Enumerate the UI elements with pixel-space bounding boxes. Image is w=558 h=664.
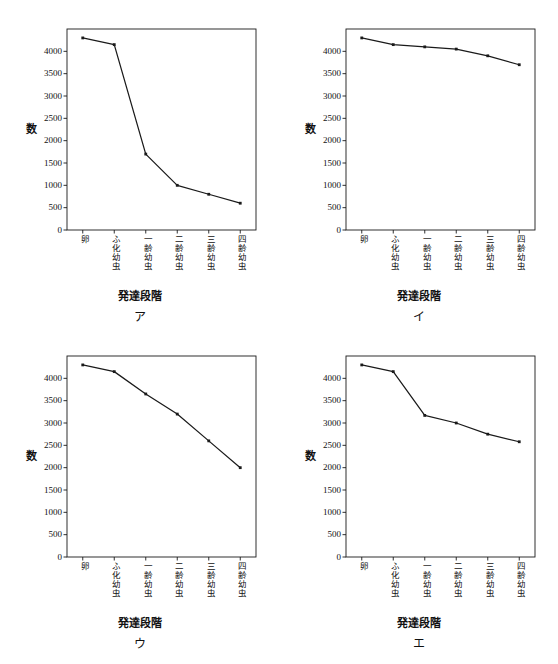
- x-axis-title: 発達段階: [279, 287, 558, 303]
- y-axis-tick-label: 4000: [307, 47, 341, 56]
- y-axis-tick-label: 0: [28, 226, 62, 235]
- y-axis-tick-label: 3500: [28, 69, 62, 78]
- x-axis-tick-label: 二齢幼虫: [171, 235, 183, 271]
- x-axis-tick-label: 四齢幼虫: [234, 562, 246, 598]
- y-axis-tick-label: 1500: [28, 159, 62, 168]
- x-axis-tick-label: ふ化幼虫: [108, 235, 120, 271]
- y-axis-tick-label: 2000: [28, 136, 62, 145]
- panel-label-d: エ: [279, 634, 558, 651]
- x-axis-title: 発達段階: [0, 287, 279, 303]
- x-axis-tick-label: 卵: [77, 562, 89, 571]
- y-axis-title: 数: [26, 451, 37, 462]
- x-axis-tick-label: 三齢幼虫: [482, 235, 494, 271]
- y-axis-tick-label: 0: [307, 226, 341, 235]
- x-axis-tick-label: 四齢幼虫: [234, 235, 246, 271]
- y-axis-tick-label: 3000: [28, 419, 62, 428]
- y-axis-tick-label: 1500: [307, 159, 341, 168]
- y-axis-tick-label: 500: [307, 203, 341, 212]
- y-axis-tick-label: 0: [28, 553, 62, 562]
- x-axis-tick-label: 一齢幼虫: [140, 562, 152, 598]
- y-axis-title: 数: [26, 124, 37, 135]
- x-axis-title: 発達段階: [0, 614, 279, 630]
- x-axis-tick-label: ふ化幼虫: [108, 562, 120, 598]
- panel-label-a: ア: [0, 307, 279, 324]
- panel-label-c: ウ: [0, 634, 279, 651]
- y-axis-tick-label: 2500: [28, 441, 62, 450]
- chart-panel-a: 数 発達段階 ア 0500100015002000250030003500400…: [0, 0, 279, 332]
- y-axis-tick-label: 2500: [307, 441, 341, 450]
- x-axis-tick-label: 二齢幼虫: [171, 562, 183, 598]
- y-axis-tick-label: 1500: [28, 486, 62, 495]
- figure-sheet: 数 発達段階 ア 0500100015002000250030003500400…: [0, 0, 558, 664]
- x-axis-tick-label: 卵: [77, 235, 89, 244]
- y-axis-tick-label: 2500: [28, 114, 62, 123]
- y-axis-tick-label: 4000: [28, 374, 62, 383]
- x-axis-tick-label: 三齢幼虫: [203, 562, 215, 598]
- chart-panel-d: 数 発達段階 エ 0500100015002000250030003500400…: [279, 332, 558, 664]
- y-axis-tick-label: 3000: [307, 419, 341, 428]
- y-axis-tick-label: 3500: [28, 396, 62, 405]
- y-axis-tick-label: 1500: [307, 486, 341, 495]
- x-axis-tick-label: 三齢幼虫: [482, 562, 494, 598]
- y-axis-tick-label: 500: [28, 203, 62, 212]
- y-axis-tick-label: 4000: [28, 47, 62, 56]
- x-axis-tick-label: 卵: [356, 562, 368, 571]
- x-axis-tick-label: 一齢幼虫: [140, 235, 152, 271]
- panel-label-b: イ: [279, 307, 558, 324]
- y-axis-tick-label: 2000: [307, 136, 341, 145]
- y-axis-tick-label: 3000: [307, 92, 341, 101]
- y-axis-tick-label: 1000: [28, 181, 62, 190]
- x-axis-tick-label: 四齢幼虫: [513, 562, 525, 598]
- chart-panel-c: 数 発達段階 ウ 0500100015002000250030003500400…: [0, 332, 279, 664]
- x-axis-title: 発達段階: [279, 614, 558, 630]
- y-axis-tick-label: 3500: [307, 396, 341, 405]
- y-axis-tick-label: 3000: [28, 92, 62, 101]
- y-axis-title: 数: [305, 451, 316, 462]
- y-axis-tick-label: 0: [307, 553, 341, 562]
- y-axis-tick-label: 1000: [307, 508, 341, 517]
- x-axis-tick-label: 四齢幼虫: [513, 235, 525, 271]
- y-axis-tick-label: 3500: [307, 69, 341, 78]
- x-axis-tick-label: 一齢幼虫: [419, 235, 431, 271]
- y-axis-tick-label: 1000: [28, 508, 62, 517]
- y-axis-tick-label: 500: [28, 530, 62, 539]
- y-axis-tick-label: 4000: [307, 374, 341, 383]
- y-axis-tick-label: 2000: [28, 463, 62, 472]
- x-axis-tick-label: 卵: [356, 235, 368, 244]
- y-axis-tick-label: 1000: [307, 181, 341, 190]
- chart-panel-b: 数 発達段階 イ 0500100015002000250030003500400…: [279, 0, 558, 332]
- x-axis-tick-label: 一齢幼虫: [419, 562, 431, 598]
- y-axis-tick-label: 500: [307, 530, 341, 539]
- x-axis-tick-label: ふ化幼虫: [387, 562, 399, 598]
- y-axis-tick-label: 2000: [307, 463, 341, 472]
- y-axis-title: 数: [305, 124, 316, 135]
- x-axis-tick-label: ふ化幼虫: [387, 235, 399, 271]
- x-axis-tick-label: 二齢幼虫: [450, 562, 462, 598]
- x-axis-tick-label: 二齢幼虫: [450, 235, 462, 271]
- y-axis-tick-label: 2500: [307, 114, 341, 123]
- x-axis-tick-label: 三齢幼虫: [203, 235, 215, 271]
